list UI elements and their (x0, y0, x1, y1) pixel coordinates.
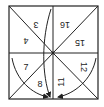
center-point (52, 52, 55, 55)
diagonal-bottom-left (9, 53, 53, 99)
region-label-12: 12 (79, 62, 89, 72)
region-label-16: 16 (60, 20, 70, 30)
region-label-11: 11 (56, 77, 66, 86)
region-label-7: 7 (23, 62, 28, 72)
region-label-3: 3 (33, 20, 38, 30)
region-label-8: 8 (37, 79, 42, 89)
region-label-15: 15 (75, 38, 85, 48)
folding-diagram: 3 4 16 15 7 8 12 11 (0, 0, 104, 107)
region-label-4: 4 (23, 36, 28, 46)
diagonal-bottom-right (53, 53, 98, 99)
